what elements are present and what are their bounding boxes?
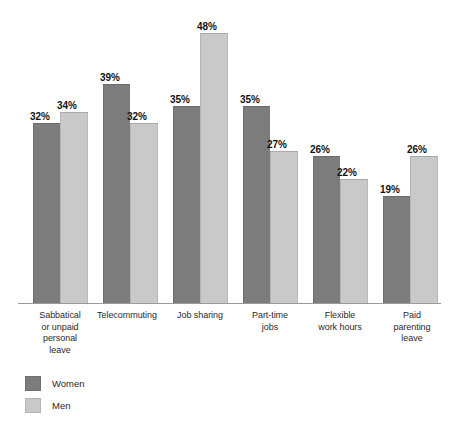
bar-value-women-part-time-jobs: 35% (240, 94, 260, 105)
bar-women-job-sharing[interactable]: 35% (173, 106, 200, 303)
bar-pair: 39% 32% (103, 84, 158, 303)
bar-pair: 19% 26% (383, 156, 438, 303)
bar-men-paid-parenting-leave[interactable]: 26% (410, 156, 438, 303)
legend-label-men: Men (52, 400, 70, 411)
bar-women-telecommuting[interactable]: 39% (103, 84, 130, 303)
bar-pair: 32% 34% (33, 112, 88, 303)
legend-label-women: Women (52, 378, 85, 389)
bar-value-men-job-sharing: 48% (197, 21, 217, 32)
bar-value-men-flexible-work-hours: 22% (337, 167, 357, 178)
bar-pair: 26% 22% (313, 156, 368, 303)
x-tick-label-telecommuting: Telecommuting (84, 310, 170, 322)
legend-swatch-women-icon (25, 376, 41, 391)
bar-men-job-sharing[interactable]: 48% (200, 33, 228, 303)
bar-men-telecommuting[interactable]: 32% (130, 123, 158, 303)
x-tick-label-job-sharing: Job sharing (160, 310, 240, 322)
bar-value-women-job-sharing: 35% (170, 94, 190, 105)
bar-value-men-sabbatical: 34% (57, 100, 77, 111)
bar-chart: 32% 34% 39% 32% 35% (0, 0, 457, 430)
bar-value-women-flexible-work-hours: 26% (310, 144, 330, 155)
x-axis-baseline (18, 303, 441, 304)
bar-women-flexible-work-hours[interactable]: 26% (313, 156, 340, 303)
bar-pair: 35% 27% (243, 106, 298, 303)
bar-value-women-sabbatical: 32% (30, 111, 50, 122)
bar-value-women-telecommuting: 39% (100, 72, 120, 83)
plot-area: 32% 34% 39% 32% 35% (0, 0, 457, 304)
bar-women-sabbatical[interactable]: 32% (33, 123, 60, 303)
x-tick-label-flexible-work-hours: Flexible work hours (298, 310, 382, 333)
bar-value-men-paid-parenting-leave: 26% (407, 144, 427, 155)
bar-men-part-time-jobs[interactable]: 27% (270, 151, 298, 303)
bar-pair: 35% 48% (173, 33, 228, 303)
bar-men-sabbatical[interactable]: 34% (60, 112, 88, 303)
bar-value-men-part-time-jobs: 27% (267, 139, 287, 150)
chart-legend: Women Men (25, 374, 85, 418)
legend-item-women[interactable]: Women (25, 374, 85, 393)
bar-men-flexible-work-hours[interactable]: 22% (340, 179, 368, 303)
bar-value-women-paid-parenting-leave: 19% (380, 184, 400, 195)
bar-women-paid-parenting-leave[interactable]: 19% (383, 196, 410, 303)
bar-women-part-time-jobs[interactable]: 35% (243, 106, 270, 303)
bar-value-men-telecommuting: 32% (127, 111, 147, 122)
legend-item-men[interactable]: Men (25, 396, 85, 415)
x-tick-label-paid-parenting-leave: Paid parenting leave (372, 310, 452, 345)
legend-swatch-men-icon (25, 398, 41, 413)
